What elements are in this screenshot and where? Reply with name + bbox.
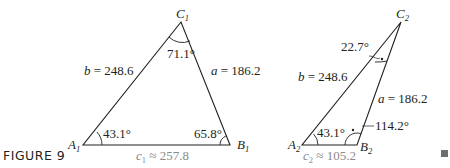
- figure-canvas: FIGURE 9 C1 A1 B1 71.1° 43.1° 65.8° b = …: [0, 0, 450, 168]
- vertex-a1-label: A1: [67, 137, 80, 154]
- side-c2-label: c2 ≈ 105.2: [303, 148, 356, 165]
- leader-line-c2: [369, 56, 380, 59]
- triangle-1: C1 A1 B1 71.1° 43.1° 65.8° b = 248.6 a =…: [67, 6, 261, 165]
- angle-b2-label: 114.2°: [375, 118, 409, 133]
- vertex-b2-label: B2: [360, 139, 373, 156]
- angle-b1-label: 65.8°: [194, 126, 222, 141]
- angle-a1-label: 43.1°: [103, 126, 131, 141]
- vertex-c1-label: C1: [176, 6, 189, 23]
- angle-marker-b2: [352, 129, 354, 131]
- side-b2-label: b = 248.6: [298, 69, 348, 84]
- vertex-c2-label: C2: [396, 6, 410, 23]
- angle-marker-c2: [381, 58, 383, 60]
- vertex-b1-label: B1: [237, 137, 249, 154]
- angle-a2-label: 43.1°: [317, 125, 345, 140]
- vertex-a2-label: A2: [287, 137, 301, 154]
- angle-arc-a1: [97, 132, 102, 145]
- side-a2-label: a = 186.2: [378, 91, 428, 106]
- side-a1-label: a = 186.2: [211, 63, 261, 78]
- triangle-2: C2 A2 B2 22.7° 43.1° 114.2° b = 248.6 a …: [287, 6, 428, 165]
- figure-label: FIGURE 9: [3, 148, 65, 163]
- side-b1-label: b = 248.6: [84, 63, 134, 78]
- angle-c1-label: 71.1°: [167, 46, 195, 61]
- end-marker-square-icon: [441, 150, 448, 157]
- side-c1-label: c1 ≈ 257.8: [136, 148, 189, 165]
- angle-arc-c2: [375, 61, 387, 62]
- angle-c2-label: 22.7°: [341, 39, 369, 54]
